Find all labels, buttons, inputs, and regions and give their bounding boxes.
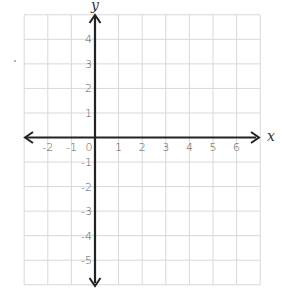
y-tick-label: 1 — [85, 107, 92, 120]
y-tick-label: 3 — [85, 58, 92, 71]
y-axis-label: y — [90, 0, 100, 13]
x-tick-label: 5 — [210, 141, 217, 154]
x-tick-label: 6 — [233, 141, 240, 154]
x-tick-label: 0 — [86, 141, 93, 154]
x-tick-label: 3 — [162, 141, 169, 154]
x-tick-label: 1 — [115, 141, 122, 154]
x-tick-labels: -2-10123456 — [42, 141, 240, 154]
y-tick-label: 2 — [85, 82, 92, 95]
y-tick-label: 4 — [85, 33, 92, 46]
y-tick-label: -4 — [81, 230, 92, 243]
x-tick-label: 2 — [139, 141, 146, 154]
x-axis-label: x — [267, 128, 275, 144]
y-tick-label: -2 — [81, 181, 92, 194]
y-tick-label: -3 — [81, 205, 92, 218]
y-tick-label: -1 — [81, 156, 92, 169]
stray-dot — [14, 60, 16, 62]
x-tick-label: 4 — [186, 141, 193, 154]
x-tick-label: -1 — [66, 141, 77, 154]
x-tick-label: -2 — [42, 141, 53, 154]
coordinate-plane: -2-10123456 4321-1-2-3-4-5 x y — [0, 0, 282, 297]
y-tick-label: -5 — [81, 254, 92, 267]
